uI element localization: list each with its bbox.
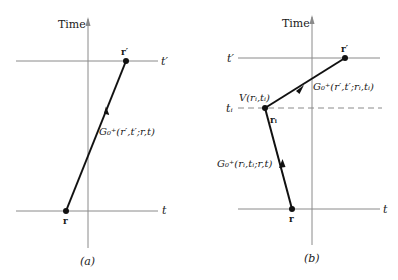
point-ri-b <box>262 105 268 111</box>
point-r-b <box>289 206 295 212</box>
time-axis-arrow-icon <box>86 17 91 26</box>
panel-a: Time t′ t r′ r G₀⁺(r′,t′;r,t) (a) <box>16 17 168 268</box>
point-r-prime-label-b: r′ <box>341 44 349 54</box>
upper-propagator-label-b: G₀⁺(r′,t′;rᵢ,tᵢ) <box>313 81 374 92</box>
ti-label-b: tᵢ <box>226 102 233 115</box>
point-ri-label-b: rᵢ <box>270 115 278 125</box>
t-label-a: t <box>162 204 167 217</box>
t-prime-label-b: t′ <box>227 52 234 65</box>
caption-a: (a) <box>80 255 95 268</box>
t-label-b: t <box>383 203 388 216</box>
point-r-prime-a <box>123 58 129 64</box>
caption-b: (b) <box>304 252 320 265</box>
time-axis-label-b: Time <box>282 17 310 30</box>
panel-b: Time t′ tᵢ t r′ rᵢ r V(rᵢ,tᵢ) G₀⁺(r′,t′;… <box>217 15 388 265</box>
interaction-label-b: V(rᵢ,tᵢ) <box>239 92 270 103</box>
point-r-label-a: r <box>63 216 68 226</box>
point-r-label-b: r <box>289 214 294 224</box>
t-prime-label-a: t′ <box>161 55 168 68</box>
point-r-a <box>63 208 69 214</box>
point-r-prime-b <box>342 55 348 61</box>
lower-propagator-label-b: G₀⁺(rᵢ,tᵢ;r,t) <box>217 158 272 169</box>
time-axis-arrow-icon <box>310 15 315 24</box>
feynman-diagrams: Time t′ t r′ r G₀⁺(r′,t′;r,t) (a) Time t… <box>0 0 398 280</box>
point-r-prime-label-a: r′ <box>121 47 129 57</box>
propagator-label-a: G₀⁺(r′,t′;r,t) <box>99 126 155 137</box>
time-axis-label-a: Time <box>58 18 86 31</box>
